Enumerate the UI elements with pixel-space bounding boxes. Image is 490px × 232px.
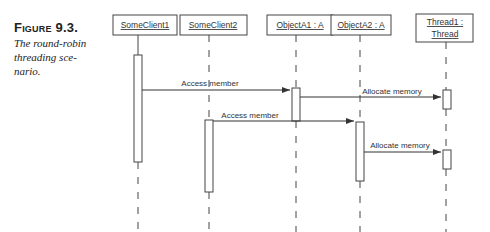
- object-label-line2: Thread: [432, 29, 459, 39]
- message-access-member-1: Access member: [142, 79, 290, 90]
- message-label: Allocate memory: [370, 141, 430, 150]
- message-access-member-2: Access member: [213, 111, 354, 121]
- object-label: ObjectA1 : A: [276, 20, 324, 30]
- activation-bar: [292, 88, 300, 121]
- message-allocate-memory-1: Allocate memory: [300, 87, 441, 97]
- lifeline-someclient1: SomeClient1: [113, 15, 177, 232]
- object-label: SomeClient1: [121, 20, 170, 30]
- object-label: SomeClient2: [189, 20, 238, 30]
- lifeline-objecta2: ObjectA2 : A: [331, 15, 391, 232]
- message-label: Access member: [221, 111, 279, 120]
- activation-bar: [443, 150, 451, 169]
- activation-bar: [356, 122, 364, 181]
- activation-bar: [134, 55, 142, 162]
- object-label-line1: Thread1 :: [427, 17, 463, 27]
- message-label: Access member: [181, 79, 239, 88]
- sequence-diagram: SomeClient1 SomeClient2 ObjectA1 : A Obj…: [0, 0, 490, 232]
- activation-bar: [443, 90, 451, 109]
- lifeline-objecta1: ObjectA1 : A: [267, 15, 333, 232]
- lifeline-someclient2: SomeClient2: [180, 15, 247, 232]
- message-allocate-memory-2: Allocate memory: [364, 141, 441, 152]
- activation-bar: [205, 120, 213, 192]
- message-label: Allocate memory: [362, 87, 422, 96]
- object-label: ObjectA2 : A: [337, 20, 385, 30]
- lifeline-thread1: Thread1 : Thread: [416, 14, 473, 232]
